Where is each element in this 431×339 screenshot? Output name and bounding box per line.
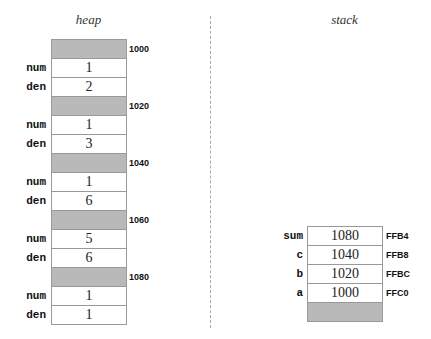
stack-variable-label: b xyxy=(250,265,303,284)
stack-address: FFC0 xyxy=(386,284,409,303)
stack-variable-c: 1040 xyxy=(308,246,382,265)
heap-stack-divider xyxy=(210,16,211,328)
heap-field-num: 1 xyxy=(52,116,126,135)
stack-frame-bottom xyxy=(308,303,382,322)
heap-field-den: 6 xyxy=(52,249,126,268)
heap-field-label: den xyxy=(0,78,46,97)
heap-address: 1080 xyxy=(129,268,149,287)
heap-field-label: den xyxy=(0,306,46,325)
stack-address: FFBC xyxy=(386,265,410,284)
heap-field-label: num xyxy=(0,59,46,78)
heap-field-label: num xyxy=(0,173,46,192)
heap-object-header xyxy=(52,211,126,230)
heap-field-label: num xyxy=(0,287,46,306)
heap-address: 1060 xyxy=(129,211,149,230)
heap-field-num: 5 xyxy=(52,230,126,249)
stack-variable-a: 1000 xyxy=(308,284,382,303)
heap-field-den: 2 xyxy=(52,78,126,97)
heap-field-label: den xyxy=(0,192,46,211)
heap-object-header xyxy=(52,97,126,116)
heap-object-header xyxy=(52,268,126,287)
heap-field-label: num xyxy=(0,230,46,249)
stack-title: stack xyxy=(307,12,382,28)
heap-title: heap xyxy=(51,12,126,28)
stack-variable-sum: 1080 xyxy=(308,227,382,246)
heap-field-den: 1 xyxy=(52,306,126,325)
heap-object-header xyxy=(52,154,126,173)
stack-address: FFB8 xyxy=(386,246,409,265)
stack-memory-column: 1080104010201000 xyxy=(307,226,383,322)
stack-variable-label: c xyxy=(250,246,303,265)
heap-field-den: 3 xyxy=(52,135,126,154)
stack-variable-b: 1020 xyxy=(308,265,382,284)
heap-memory-column: 1213165611 xyxy=(51,39,127,325)
heap-field-label: den xyxy=(0,249,46,268)
heap-field-label: num xyxy=(0,116,46,135)
stack-address: FFB4 xyxy=(386,227,409,246)
heap-field-num: 1 xyxy=(52,59,126,78)
stack-variable-label: a xyxy=(250,284,303,303)
heap-object-header xyxy=(52,40,126,59)
heap-address: 1020 xyxy=(129,97,149,116)
heap-address: 1000 xyxy=(129,40,149,59)
heap-field-den: 6 xyxy=(52,192,126,211)
heap-field-num: 1 xyxy=(52,287,126,306)
heap-field-label: den xyxy=(0,135,46,154)
heap-field-num: 1 xyxy=(52,173,126,192)
stack-variable-label: sum xyxy=(250,227,303,246)
heap-address: 1040 xyxy=(129,154,149,173)
